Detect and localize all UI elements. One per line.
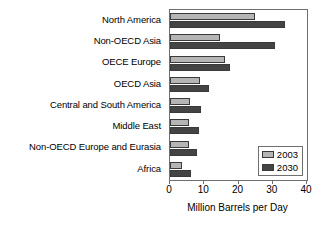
bar-2003 [170,98,190,105]
x-axis-tick-label: 30 [266,185,277,195]
bar-group [170,10,307,31]
category-label: Non-OECD Europe and Eurasia [0,137,166,158]
bar-2003 [170,13,255,20]
legend: 2003 2030 [258,146,303,176]
bar-chart: North America Non-OECD Asia OECE Europe … [0,0,328,230]
bar-2030 [170,21,285,28]
x-axis-tick-label: 0 [166,185,172,195]
x-axis-tick-label: 40 [300,185,311,195]
category-label: North America [0,9,166,30]
bar-2030 [170,170,191,177]
bar-2030 [170,127,199,134]
category-label: Central and South America [0,94,166,115]
category-label: Africa [0,158,166,179]
legend-label: 2003 [277,150,298,160]
bar-2030 [170,85,209,92]
bar-group [170,95,307,116]
category-label: OECD Asia [0,73,166,94]
bar-2003 [170,141,189,148]
bar-2030 [170,42,275,49]
bar-2003 [170,77,200,84]
category-label: Middle East [0,115,166,136]
bar-2003 [170,34,220,41]
plot-area: 2003 2030 [169,9,308,181]
x-axis-tick-label: 10 [198,185,209,195]
bar-2030 [170,149,197,156]
bar-2030 [170,64,230,71]
x-axis-title: Million Barrels per Day [169,203,306,213]
legend-swatch-icon [262,164,274,171]
bar-2003 [170,162,182,169]
bar-2003 [170,119,189,126]
legend-item-2030: 2030 [262,163,298,173]
bar-2030 [170,106,201,113]
category-axis: North America Non-OECD Asia OECE Europe … [0,9,166,179]
category-label: OECE Europe [0,52,166,73]
legend-item-2003: 2003 [262,150,298,160]
bar-group [170,74,307,95]
bar-group [170,53,307,74]
legend-label: 2030 [277,163,298,173]
x-axis-tick-label: 20 [232,185,243,195]
bar-group [170,116,307,137]
legend-swatch-icon [262,151,274,158]
category-label: Non-OECD Asia [0,30,166,51]
bar-2003 [170,56,225,63]
bar-group [170,31,307,52]
